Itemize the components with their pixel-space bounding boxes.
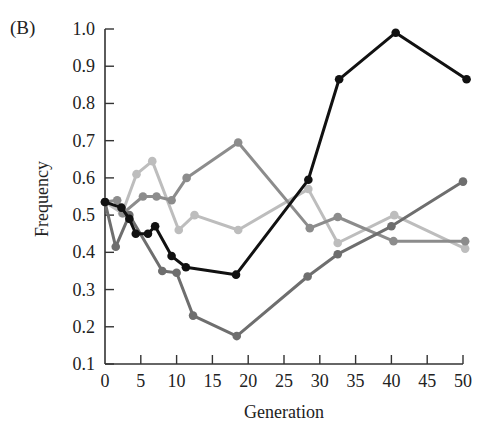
data-point [139,192,148,201]
y-tick-label: 0.8 [73,93,96,113]
x-tick-label: 50 [454,371,472,391]
x-tick-label: 20 [239,371,257,391]
data-point [333,250,342,259]
line-chart: 0.10.20.30.40.50.60.70.80.91.00510152025… [0,0,479,435]
data-point [232,332,241,341]
data-point [152,192,161,201]
data-point [391,28,400,37]
data-point [167,196,176,205]
data-point [113,196,122,205]
y-tick-label: 0.5 [73,205,96,225]
data-point [182,174,191,183]
x-tick-label: 0 [101,371,110,391]
data-point [304,175,313,184]
data-point [461,244,470,253]
x-tick-label: 10 [168,371,186,391]
data-point [101,198,110,207]
data-point [131,229,140,238]
y-tick-label: 0.9 [73,56,96,76]
data-point [151,222,160,231]
data-point [189,311,198,320]
data-point [462,75,471,84]
y-tick-label: 0.7 [73,131,96,151]
y-tick-label: 0.6 [73,168,96,188]
y-tick-label: 0.3 [73,280,96,300]
data-point [459,177,468,186]
x-tick-label: 35 [347,371,365,391]
data-point [174,226,183,235]
data-point [335,75,344,84]
data-point [132,170,141,179]
x-tick-label: 40 [382,371,400,391]
series-line [105,33,467,275]
data-point [234,138,243,147]
y-tick-label: 0.2 [73,317,96,337]
data-point [387,222,396,231]
series-group [101,28,471,340]
series-1 [101,157,470,253]
data-point [158,267,167,276]
data-point [303,272,312,281]
data-point [461,237,470,246]
data-point [305,224,314,233]
y-tick-label: 1.0 [73,19,96,39]
data-point [190,211,199,220]
data-point [182,263,191,272]
data-point [125,215,134,224]
data-point [234,226,243,235]
x-tick-label: 45 [418,371,436,391]
data-point [390,211,399,220]
data-point [333,239,342,248]
data-point [111,242,120,251]
data-point [167,252,176,261]
y-tick-label: 0.4 [73,242,96,262]
x-tick-label: 15 [203,371,221,391]
x-tick-label: 5 [136,371,145,391]
y-tick-label: 0.1 [73,354,96,374]
data-point [232,270,241,279]
data-point [172,269,181,278]
x-tick-label: 30 [311,371,329,391]
data-point [117,203,126,212]
data-point [389,237,398,246]
x-tick-label: 25 [275,371,293,391]
data-point [144,229,153,238]
data-point [148,157,157,166]
data-point [333,213,342,222]
